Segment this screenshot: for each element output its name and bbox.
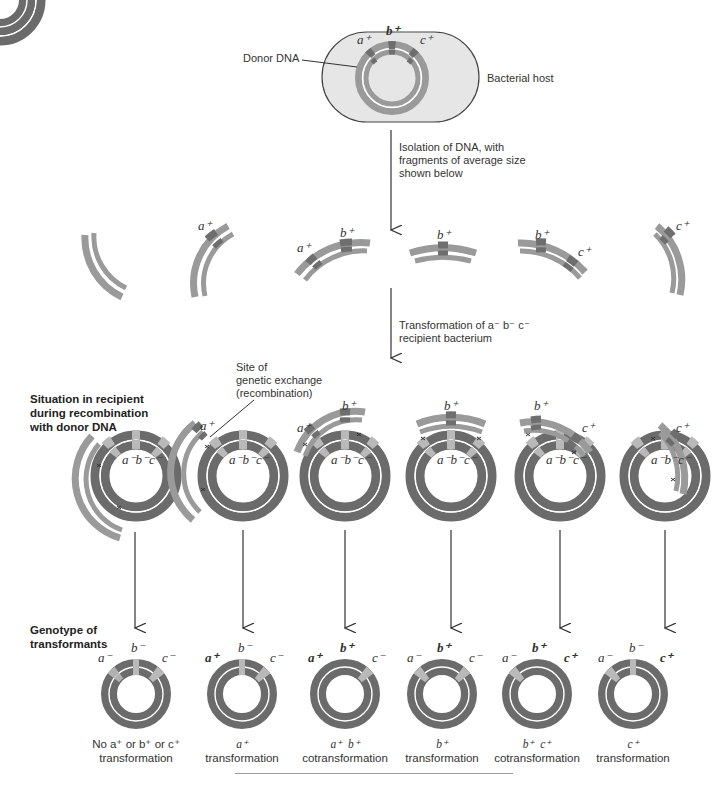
dna-fragments — [85, 226, 682, 297]
gene-label-b: b⁺ — [386, 23, 400, 39]
fragment-2-gene-a: a⁺ — [198, 218, 212, 234]
caption-3: a⁺ b⁺ cotransformation — [290, 737, 400, 765]
donor-dna-label: Donor DNA — [243, 52, 299, 65]
site-line-1: Site of — [236, 361, 322, 374]
result-arrows — [135, 530, 665, 628]
t4-gene-a: a⁻ — [407, 650, 421, 666]
caption-3-line-1: a⁺ b⁺ — [290, 737, 400, 751]
transformation-caption: Transformation of a⁻ b⁻ c⁻ recipient bac… — [399, 319, 530, 345]
isolation-line-3: shown below — [399, 167, 526, 180]
t2-gene-c: c⁻ — [270, 650, 283, 666]
t6-gene-c: c⁺ — [660, 650, 673, 666]
isolation-caption: Isolation of DNA, with fragments of aver… — [399, 141, 526, 180]
caption-1-line-2: transformation — [81, 751, 191, 765]
recipient-genotype-3: a⁻b⁻c⁻ — [331, 452, 371, 468]
fragment-5-gene-c: c⁺ — [578, 244, 591, 260]
fragment-3-gene-b: b⁺ — [340, 225, 354, 241]
t5-gene-a: a⁻ — [502, 650, 516, 666]
caption-4-line-2: transformation — [387, 751, 497, 765]
t1-gene-a: a⁻ — [98, 650, 112, 666]
caption-3-line-2: cotransformation — [290, 751, 400, 765]
caption-5-line-1: b⁺ c⁺ — [482, 737, 592, 751]
recipient-genotype-1: a⁻b⁻c⁻ — [122, 452, 162, 468]
caption-2-line-1: a⁺ — [187, 737, 297, 751]
t2-gene-b: b⁻ — [238, 640, 252, 656]
bottom-rule — [235, 773, 513, 774]
recipient-genotype-4: a⁻b⁻c⁻ — [437, 452, 477, 468]
t5-gene-c: c⁺ — [564, 650, 577, 666]
site-line-3: (recombination) — [236, 387, 322, 400]
transformants-heading-line-2: transformants — [30, 637, 107, 651]
recombination-heading-line-1: Situation in recipient — [30, 392, 148, 406]
caption-5: b⁺ c⁺ cotransformation — [482, 737, 592, 765]
caption-5-line-2: cotransformation — [482, 751, 592, 765]
recipient-genotype-2: a⁻b⁻c⁻ — [229, 452, 269, 468]
t4-gene-c: c⁻ — [469, 650, 482, 666]
bacterial-host-label: Bacterial host — [487, 72, 554, 85]
caption-2-line-2: transformation — [187, 751, 297, 765]
isolation-line-2: fragments of average size — [399, 154, 526, 167]
caption-1: No a⁺ or b⁺ or c⁺ transformation — [81, 737, 191, 765]
recomb-2-gene-a: a⁺ — [200, 418, 214, 434]
gene-label-a: a⁺ — [357, 32, 371, 48]
t4-gene-b: b⁺ — [437, 640, 451, 656]
caption-1-line-1: No a⁺ or b⁺ or c⁺ — [81, 737, 191, 751]
recombination-site-label: Site of genetic exchange (recombination) — [236, 361, 322, 400]
recombination-heading: Situation in recipient during recombinat… — [30, 392, 148, 434]
recombination-heading-line-2: during recombination — [30, 406, 148, 420]
fragment-6-gene-c: c⁺ — [676, 218, 689, 234]
recomb-5-gene-b: b⁺ — [534, 398, 548, 414]
t5-gene-b: b⁺ — [532, 640, 546, 656]
gene-label-c: c⁺ — [420, 32, 433, 48]
recomb-4-gene-b: b⁺ — [444, 398, 458, 414]
recombination-heading-line-3: with donor DNA — [30, 420, 148, 434]
fragment-3-gene-a: a⁺ — [297, 240, 311, 256]
caption-2: a⁺ transformation — [187, 737, 297, 765]
site-line-2: genetic exchange — [236, 374, 322, 387]
transformant-rings — [0, 0, 664, 725]
recomb-3-gene-a: a⁺ — [297, 420, 311, 436]
t6-gene-b: b⁻ — [629, 640, 643, 656]
t3-gene-a: a⁺ — [308, 650, 322, 666]
recomb-6-gene-c: c⁺ — [676, 420, 689, 436]
caption-6: c⁺ transformation — [578, 737, 688, 765]
fragment-4-gene-b: b⁺ — [437, 227, 451, 243]
transformation-line-1: Transformation of a⁻ b⁻ c⁻ — [399, 319, 530, 332]
fragment-5-gene-b: b⁺ — [535, 227, 549, 243]
t3-gene-b: b⁺ — [340, 640, 354, 656]
recomb-3-gene-b: b⁺ — [342, 398, 356, 414]
recomb-5-gene-c: c⁺ — [582, 420, 595, 436]
transformants-heading: Genotype of transformants — [30, 623, 107, 651]
t1-gene-c: c⁻ — [162, 650, 175, 666]
recipient-genotype-5: a⁻b⁻c⁻ — [546, 452, 586, 468]
t1-gene-b: b⁻ — [131, 640, 145, 656]
caption-6-line-1: c⁺ — [578, 737, 688, 751]
transformants-heading-line-1: Genotype of — [30, 623, 107, 637]
t2-gene-a: a⁺ — [205, 650, 219, 666]
transformation-line-2: recipient bacterium — [399, 332, 530, 345]
caption-6-line-2: transformation — [578, 751, 688, 765]
t3-gene-c: c⁻ — [372, 650, 385, 666]
t6-gene-a: a⁻ — [598, 650, 612, 666]
caption-4: b⁺ transformation — [387, 737, 497, 765]
caption-4-line-1: b⁺ — [387, 737, 497, 751]
isolation-line-1: Isolation of DNA, with — [399, 141, 526, 154]
recipient-genotype-6: a⁻b⁻c⁻ — [651, 452, 691, 468]
